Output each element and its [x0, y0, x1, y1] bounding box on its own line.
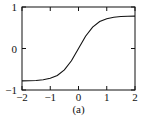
y-tick-label: 0: [12, 43, 18, 55]
x-tick-label: −2: [16, 91, 28, 103]
y-tick-label: 1: [12, 1, 18, 13]
x-tick-label: 1: [104, 91, 110, 103]
y-tick-label: −1: [5, 84, 17, 96]
y-axis-ticks: −101: [5, 1, 135, 96]
figure-caption: (a): [72, 103, 85, 116]
x-tick-label: 2: [132, 91, 138, 103]
x-tick-label: −1: [44, 91, 56, 103]
x-axis-ticks: −2−1012: [16, 7, 138, 103]
x-tick-label: 0: [76, 91, 82, 103]
data-line: [22, 16, 135, 81]
chart: −2−1012 −101 (a): [0, 0, 144, 123]
